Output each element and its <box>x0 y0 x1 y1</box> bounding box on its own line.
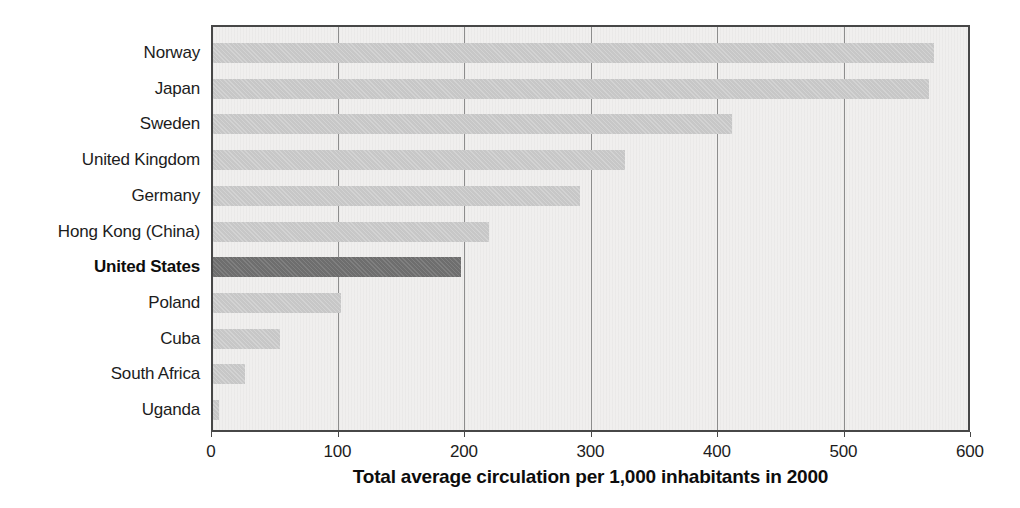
x-axis-title: Total average circulation per 1,000 inha… <box>211 466 970 488</box>
category-label-uganda: Uganda <box>0 400 200 420</box>
x-tick-label-500: 500 <box>814 442 874 462</box>
category-label-united-kingdom: United Kingdom <box>0 150 200 170</box>
bar-united-states <box>213 257 461 277</box>
bar-japan <box>213 79 929 99</box>
bar-hong-kong-china <box>213 222 489 242</box>
x-tick-200 <box>464 432 465 437</box>
category-label-germany: Germany <box>0 186 200 206</box>
x-tick-600 <box>970 432 971 437</box>
category-label-norway: Norway <box>0 43 200 63</box>
bar-south-africa <box>213 364 245 384</box>
category-label-united-states: United States <box>0 257 200 277</box>
category-label-japan: Japan <box>0 79 200 99</box>
x-tick-label-400: 400 <box>687 442 747 462</box>
bar-germany <box>213 186 580 206</box>
category-label-south-africa: South Africa <box>0 364 200 384</box>
bar-united-kingdom <box>213 150 625 170</box>
x-tick-0 <box>211 432 212 437</box>
x-tick-100 <box>338 432 339 437</box>
x-tick-label-300: 300 <box>561 442 621 462</box>
bar-uganda <box>213 400 219 420</box>
x-tick-500 <box>844 432 845 437</box>
bar-sweden <box>213 114 732 134</box>
x-tick-400 <box>717 432 718 437</box>
category-label-poland: Poland <box>0 293 200 313</box>
category-label-cuba: Cuba <box>0 329 200 349</box>
plot-area <box>211 25 970 432</box>
x-tick-300 <box>591 432 592 437</box>
x-tick-label-600: 600 <box>940 442 1000 462</box>
category-label-sweden: Sweden <box>0 114 200 134</box>
bar-poland <box>213 293 341 313</box>
x-tick-label-200: 200 <box>434 442 494 462</box>
bar-norway <box>213 43 934 63</box>
bar-cuba <box>213 329 280 349</box>
x-tick-label-100: 100 <box>308 442 368 462</box>
category-label-hong-kong-china: Hong Kong (China) <box>0 222 200 242</box>
x-tick-label-0: 0 <box>181 442 241 462</box>
newspaper-circulation-bar-chart: NorwayJapanSwedenUnited KingdomGermanyHo… <box>0 0 1020 508</box>
